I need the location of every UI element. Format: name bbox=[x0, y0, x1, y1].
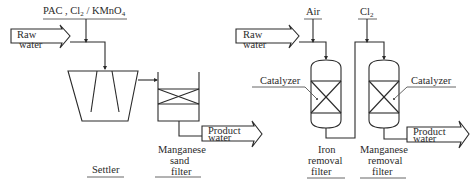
filter-label-3: filter bbox=[171, 166, 192, 177]
svg-text:PAC , Cl2 / KMnO4: PAC , Cl2 / KMnO4 bbox=[43, 5, 126, 18]
catalyzer-right-label: Catalyzer bbox=[411, 75, 452, 86]
mn-filter-vessel bbox=[369, 60, 399, 128]
mn-filter-label-1: Manganese bbox=[360, 144, 408, 155]
chemicals-subscript-2: 4 bbox=[122, 10, 126, 18]
settler-baffle-2 bbox=[112, 71, 119, 112]
mn-filter-label-2: removal bbox=[368, 155, 402, 166]
iron-filter-vessel bbox=[311, 60, 341, 128]
mn-filter-outlet-pipe bbox=[384, 128, 407, 139]
settler-tank bbox=[68, 71, 138, 121]
settler bbox=[68, 71, 138, 121]
inlet-pipe bbox=[70, 42, 105, 69]
iron-filter-label-3: filter bbox=[311, 166, 332, 177]
settler-label: Settler bbox=[92, 164, 120, 175]
cl2-text: Cl bbox=[360, 6, 370, 17]
mn-filter-inlet-arrow-icon bbox=[382, 56, 386, 60]
filter-label-2: sand bbox=[170, 155, 190, 166]
chemicals-text-rest: / KMnO bbox=[84, 5, 122, 16]
iron-to-mn-pipe bbox=[326, 42, 384, 138]
left-process: PAC , Cl2 / KMnO4 Raw water bbox=[11, 5, 262, 177]
raw-water-inlet-arrow: Raw water bbox=[11, 25, 70, 50]
settler-inlet-arrow-icon bbox=[103, 66, 107, 70]
chemical-dosing-label: PAC , Cl2 / KMnO4 bbox=[43, 5, 127, 19]
right-process: Air Cl2 Raw water Catalyzer bbox=[236, 6, 469, 178]
product-water-outlet-arrow: Product water bbox=[202, 121, 262, 147]
product-water-text-2: water bbox=[208, 132, 232, 143]
raw-water-inlet-arrow-right: Raw water bbox=[236, 25, 299, 50]
raw-water-text-2: water bbox=[19, 39, 43, 50]
product-water-outlet-arrow-right: Product water bbox=[407, 121, 469, 148]
iron-filter-inlet-pipe bbox=[299, 42, 326, 59]
filter-outlet-pipe bbox=[179, 121, 202, 136]
iron-removal-filter bbox=[311, 60, 341, 128]
settler-baffle-1 bbox=[91, 71, 97, 112]
filter-inlet-arrow-icon bbox=[154, 78, 158, 82]
iron-filter-inlet-arrow-icon bbox=[324, 56, 328, 60]
raw-water-right-text-2: water bbox=[243, 39, 267, 50]
manganese-sand-filter bbox=[158, 72, 199, 121]
iron-filter-label-1: Iron bbox=[318, 144, 336, 155]
catalyzer-right-leader bbox=[394, 87, 407, 99]
cl2-subscript: 2 bbox=[370, 11, 374, 19]
mn-filter-label-3: filter bbox=[372, 166, 393, 177]
product-water-right-text-2: water bbox=[413, 133, 437, 144]
chemicals-text: PAC , Cl bbox=[43, 5, 80, 16]
catalyzer-left-label: Catalyzer bbox=[260, 75, 301, 86]
manganese-removal-filter bbox=[369, 60, 399, 128]
water-treatment-diagram: PAC , Cl2 / KMnO4 Raw water bbox=[0, 0, 475, 188]
cl2-label: Cl2 bbox=[360, 6, 374, 19]
iron-filter-label-2: removal bbox=[308, 155, 342, 166]
filter-label-1: Manganese bbox=[158, 144, 206, 155]
air-label: Air bbox=[306, 6, 321, 17]
